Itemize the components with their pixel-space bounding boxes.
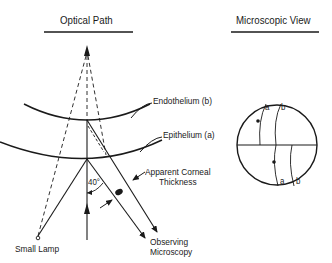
micro-lower-b-label: b — [296, 176, 300, 187]
lower-a-curve — [274, 145, 278, 186]
dashed-ray-left — [38, 56, 86, 236]
observing-label-2: Microscopy — [150, 246, 192, 257]
thickness-pointer-lower — [100, 200, 112, 208]
micro-upper-a-label: a — [265, 102, 269, 113]
up-arrow-icon — [84, 203, 90, 214]
lower-b-curve — [290, 145, 294, 186]
micro-lower-a-label: a — [280, 176, 284, 187]
optical-path-title: Optical Path — [60, 14, 113, 26]
small-lamp-label: Small Lamp — [15, 243, 59, 254]
apparent-thickness-label-2: Thickness — [159, 176, 197, 187]
microscopic-view-title: Microscopic View — [236, 14, 311, 26]
epithelium-arc — [0, 140, 162, 159]
angle-label: 40° — [88, 177, 100, 188]
lower-a-dot — [272, 160, 276, 164]
apparent-thickness-ellipse — [114, 188, 124, 197]
dashed-inner-reflection — [88, 126, 104, 152]
apex-arrow-icon — [84, 45, 90, 56]
epithelium-label: Epithelium (a) — [163, 129, 215, 140]
ray-lamp-to-epithelium — [38, 159, 87, 236]
upper-a-dot — [256, 119, 260, 123]
micro-upper-b-label: b — [281, 102, 285, 113]
thickness-pointer-upper — [133, 172, 145, 180]
endothelium-label: Endothelium (b) — [153, 95, 212, 106]
small-lamp-icon — [36, 236, 40, 240]
